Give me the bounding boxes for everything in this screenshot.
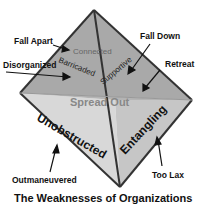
callout-too-lax: Too Lax xyxy=(152,171,184,180)
callout-fall-apart: Fall Apart xyxy=(14,37,53,46)
edge-label-connected: Connected xyxy=(73,47,112,56)
diagram-title: The Weaknesses of Organizations xyxy=(14,192,192,204)
pyramid-diagram: Connected Barricaded Supportive Spread O… xyxy=(0,0,199,204)
callout-outmaneuvered: Outmaneuvered xyxy=(12,176,77,185)
callout-disorganized: Disorganized xyxy=(3,61,56,70)
face-label-spread-out: Spread Out xyxy=(70,96,130,108)
callout-fall-down: Fall Down xyxy=(140,32,180,41)
callout-retreat: Retreat xyxy=(165,60,194,69)
